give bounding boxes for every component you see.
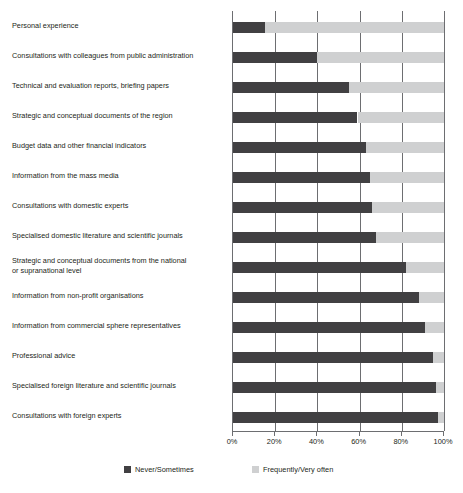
bar-segment-never-sometimes <box>233 22 265 33</box>
x-tick-label: 80% <box>393 437 408 446</box>
light-square-swatch <box>252 466 259 473</box>
x-tick-label: 100% <box>434 437 453 446</box>
bar-row <box>233 292 444 303</box>
bar-row <box>233 22 444 33</box>
bar-row <box>233 412 444 423</box>
bar-segment-never-sometimes <box>233 352 433 363</box>
bar-track <box>233 292 444 303</box>
x-tick <box>401 431 402 436</box>
category-label: Professional advice <box>12 351 227 361</box>
bar-segment-frequently-very-often <box>370 172 444 183</box>
bar-segment-never-sometimes <box>233 112 357 123</box>
bar-segment-never-sometimes <box>233 262 406 273</box>
bar-segment-frequently-very-often <box>349 82 444 93</box>
plot-area <box>232 11 445 431</box>
bar-segment-never-sometimes <box>233 52 317 63</box>
x-tick <box>232 431 233 436</box>
bar-row <box>233 82 444 93</box>
x-tick-label: 0% <box>227 437 238 446</box>
chart-legend: Never/SometimesFrequently/Very often <box>124 465 384 479</box>
x-tick <box>316 431 317 436</box>
x-axis-line <box>232 431 444 432</box>
dark-square-swatch <box>124 466 131 473</box>
category-label: Consultations with domestic experts <box>12 201 227 211</box>
category-label: Budget data and other financial indicato… <box>12 141 227 151</box>
bar-segment-frequently-very-often <box>317 52 444 63</box>
bar-segment-frequently-very-often <box>419 292 444 303</box>
bar-row <box>233 382 444 393</box>
bar-track <box>233 202 444 213</box>
legend-item: Frequently/Very often <box>252 465 333 474</box>
bar-track <box>233 142 444 153</box>
bar-segment-never-sometimes <box>233 292 419 303</box>
bar-track <box>233 352 444 363</box>
bar-segment-never-sometimes <box>233 172 370 183</box>
bar-track <box>233 112 444 123</box>
bar-segment-frequently-very-often <box>433 352 444 363</box>
bar-segment-frequently-very-often <box>438 412 444 423</box>
bar-track <box>233 52 444 63</box>
bar-track <box>233 262 444 273</box>
category-label: Information from non-profit organisation… <box>12 291 227 301</box>
bar-segment-never-sometimes <box>233 202 372 213</box>
x-tick-label: 20% <box>267 437 282 446</box>
bar-track <box>233 22 444 33</box>
legend-label: Never/Sometimes <box>135 465 194 474</box>
category-label: Specialised foreign literature and scien… <box>12 381 227 391</box>
x-tick <box>274 431 275 436</box>
category-label: Specialised domestic literature and scie… <box>12 231 227 241</box>
bar-rows <box>233 11 444 431</box>
bar-track <box>233 322 444 333</box>
category-label: Information from the mass media <box>12 171 227 181</box>
bar-segment-never-sometimes <box>233 232 376 243</box>
bar-row <box>233 232 444 243</box>
bar-track <box>233 82 444 93</box>
bar-track <box>233 382 444 393</box>
category-label: Consultations with colleagues from publi… <box>12 51 227 61</box>
legend-label: Frequently/Very often <box>263 465 333 474</box>
legend-item: Never/Sometimes <box>124 465 194 474</box>
category-label: Strategic and conceptual documents of th… <box>12 111 227 121</box>
bar-row <box>233 262 444 273</box>
bar-segment-frequently-very-often <box>425 322 444 333</box>
stacked-bar-chart: Personal experienceConsultations with co… <box>0 0 463 493</box>
category-label: Personal experience <box>12 21 227 31</box>
bar-segment-never-sometimes <box>233 412 438 423</box>
bar-track <box>233 412 444 423</box>
bar-segment-never-sometimes <box>233 322 425 333</box>
x-tick-label: 60% <box>351 437 366 446</box>
bar-segment-frequently-very-often <box>265 22 444 33</box>
bar-row <box>233 172 444 183</box>
bar-row <box>233 112 444 123</box>
category-label: Consultations with foreign experts <box>12 411 227 421</box>
bar-segment-never-sometimes <box>233 382 436 393</box>
bar-row <box>233 52 444 63</box>
bar-segment-never-sometimes <box>233 142 366 153</box>
bar-segment-frequently-very-often <box>436 382 444 393</box>
bar-row <box>233 322 444 333</box>
x-tick <box>359 431 360 436</box>
category-label: Information from commercial sphere repre… <box>12 321 227 331</box>
bar-segment-frequently-very-often <box>372 202 444 213</box>
bar-segment-frequently-very-often <box>376 232 444 243</box>
bar-track <box>233 232 444 243</box>
x-tick-label: 40% <box>309 437 324 446</box>
bar-segment-frequently-very-often <box>358 112 445 123</box>
bar-row <box>233 352 444 363</box>
category-label: Technical and evaluation reports, briefi… <box>12 81 227 91</box>
bar-row <box>233 202 444 213</box>
category-axis-labels: Personal experienceConsultations with co… <box>12 11 227 431</box>
bar-row <box>233 142 444 153</box>
bar-segment-never-sometimes <box>233 82 349 93</box>
x-tick <box>443 431 444 436</box>
bar-segment-frequently-very-often <box>406 262 444 273</box>
bar-track <box>233 172 444 183</box>
bar-segment-frequently-very-often <box>366 142 444 153</box>
category-label: Strategic and conceptual documents from … <box>12 256 227 275</box>
